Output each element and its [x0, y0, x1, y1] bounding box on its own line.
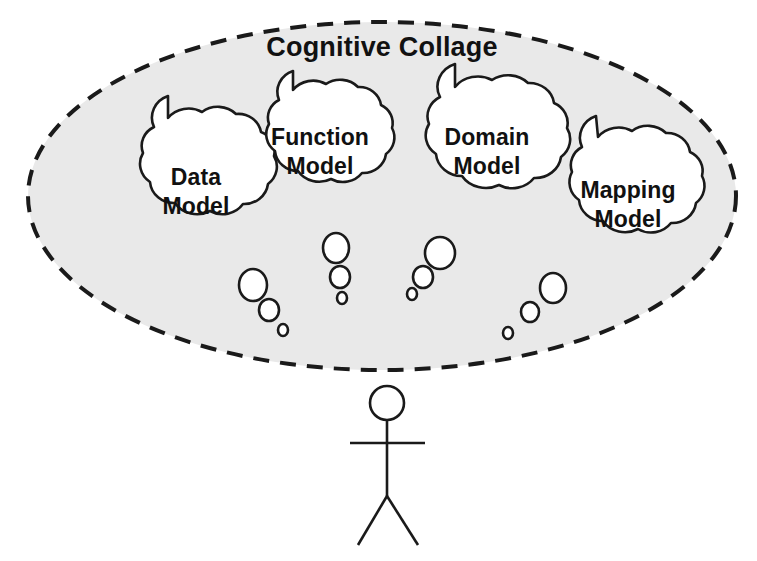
stick-figure-leg-left — [358, 496, 387, 545]
cloud-data-model-label-line1: Data — [171, 164, 221, 190]
thought-bubble — [540, 273, 566, 303]
stick-figure-leg-right — [387, 496, 418, 545]
cloud-data-model-label-line2: Model — [163, 193, 230, 219]
cloud-mapping-model-label-line1: Mapping — [580, 177, 675, 203]
cloud-domain-model-label-line2: Model — [454, 153, 521, 179]
cloud-domain-model-label-line1: Domain — [445, 124, 530, 150]
cloud-mapping-model-label-line2: Model — [595, 206, 662, 232]
thought-bubble — [425, 237, 455, 269]
thought-bubble — [413, 266, 433, 288]
thought-bubble — [239, 269, 267, 301]
thought-bubble — [278, 324, 288, 336]
cognitive-collage-diagram: Cognitive Collage Data Model Function Mo… — [0, 0, 757, 561]
thought-bubble — [259, 299, 279, 321]
diagram-canvas: Cognitive Collage Data Model Function Mo… — [0, 0, 757, 561]
thought-bubble — [323, 233, 349, 263]
cloud-function-model-label-line2: Model — [287, 153, 354, 179]
thought-bubble — [407, 288, 417, 300]
diagram-title: Cognitive Collage — [266, 32, 497, 62]
thought-bubble — [521, 302, 539, 322]
stick-figure-person[interactable] — [350, 386, 425, 545]
cloud-function-model-label-line1: Function — [271, 124, 369, 150]
stick-figure-head — [370, 386, 404, 420]
thought-bubble — [337, 292, 347, 304]
thought-bubble — [330, 266, 350, 288]
thought-bubble — [503, 327, 513, 339]
